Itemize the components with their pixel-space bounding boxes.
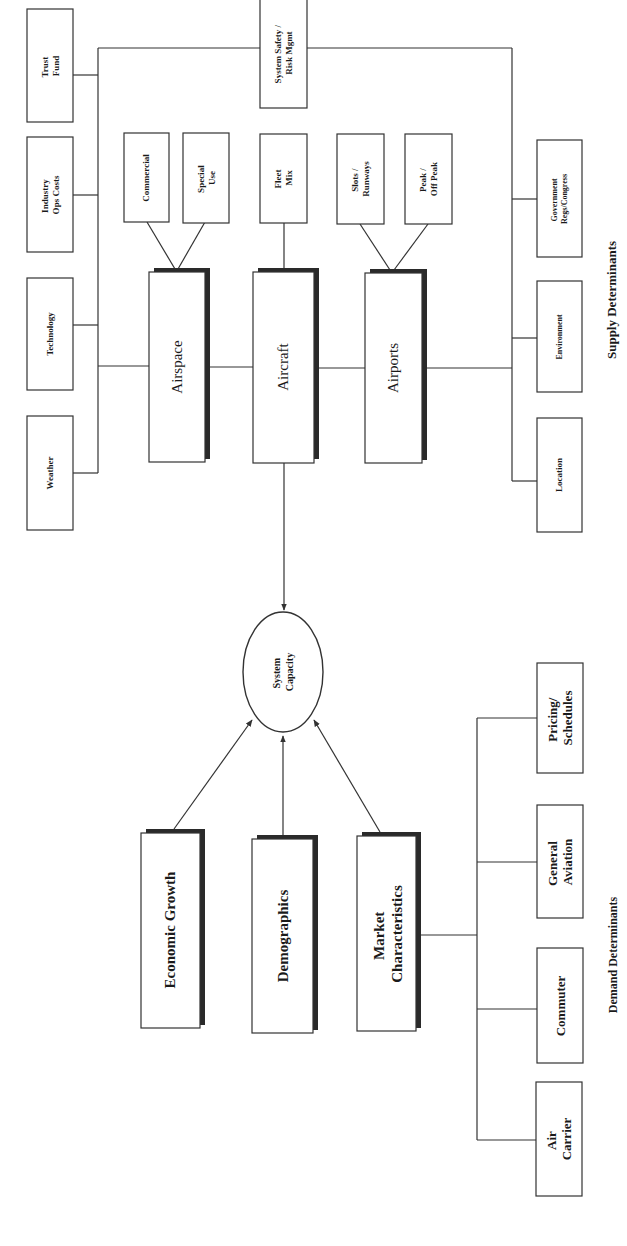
box-airports: Airports bbox=[365, 269, 427, 463]
box-demographics: Demographics bbox=[252, 835, 318, 1033]
box-peak-off-peak: Peak / Off Peak bbox=[405, 134, 452, 224]
box-economic-growth: Economic Growth bbox=[141, 829, 205, 1028]
box-industry-ops-costs: Industry Ops Costs bbox=[27, 137, 73, 252]
box-aircraft: Aircraft bbox=[253, 268, 319, 463]
svg-text:Fleet Mix: Fleet Mix bbox=[273, 167, 294, 188]
svg-text:Government Regs/Congress: Government Regs/Congress bbox=[550, 174, 569, 224]
box-system-safety: System Safety / Risk Mgmt bbox=[260, 0, 307, 108]
box-location: Location bbox=[537, 418, 582, 532]
box-slots-runways: Slots / Runways bbox=[337, 134, 384, 224]
box-commuter: Commuter bbox=[537, 948, 583, 1063]
box-commercial: Commercial bbox=[124, 133, 169, 222]
svg-text:Commuter: Commuter bbox=[553, 975, 568, 1036]
demand-connectors bbox=[174, 718, 537, 1140]
box-fleet-mix: Fleet Mix bbox=[260, 134, 307, 223]
svg-text:Weather: Weather bbox=[45, 457, 55, 490]
svg-text:Demographics: Demographics bbox=[275, 890, 291, 983]
svg-text:Location: Location bbox=[554, 458, 564, 492]
box-special-use: Special Use bbox=[183, 133, 229, 223]
box-airspace: Airspace bbox=[149, 268, 210, 462]
box-air-carrier: Air Carrier bbox=[536, 1082, 582, 1196]
svg-text:General Aviation: General Aviation bbox=[545, 838, 575, 886]
system-capacity-line-2: Capacity bbox=[284, 653, 295, 691]
system-capacity-line-1: System bbox=[271, 657, 282, 688]
svg-text:Economic Growth: Economic Growth bbox=[162, 871, 178, 988]
svg-text:Airspace: Airspace bbox=[169, 340, 185, 394]
supply-determinants-title: Supply Determinants bbox=[604, 241, 619, 359]
svg-text:Airports: Airports bbox=[385, 343, 401, 393]
svg-text:Aircraft: Aircraft bbox=[275, 342, 291, 390]
box-general-aviation: General Aviation bbox=[537, 805, 583, 918]
svg-text:Industry Ops Costs: Industry Ops Costs bbox=[40, 175, 61, 214]
svg-text:System Safety / Risk Mgm: System Safety / Risk Mgmt bbox=[273, 23, 294, 84]
box-technology: Technology bbox=[27, 278, 73, 390]
box-trust-fund: Trust Fund bbox=[27, 9, 73, 122]
svg-text:Peak / Off Peak: Peak / Off Peak bbox=[418, 162, 439, 196]
demand-determinants-title: Demand Determinants bbox=[606, 897, 620, 1014]
diagram-canvas: System Capacity Trust Fund Industry Ops … bbox=[0, 0, 627, 1246]
svg-text:Pricing/ Schedules: Pricing/ Schedules bbox=[545, 691, 575, 746]
box-market-characteristics: Market Characteristics bbox=[357, 832, 421, 1031]
box-weather: Weather bbox=[27, 416, 73, 530]
box-pricing-schedules: Pricing/ Schedules bbox=[537, 663, 583, 773]
system-capacity-node: System Capacity bbox=[243, 612, 323, 732]
svg-text:Environment: Environment bbox=[555, 314, 564, 360]
svg-text:Commercial: Commercial bbox=[141, 154, 151, 202]
box-environment: Environment bbox=[537, 281, 582, 392]
box-government: Government Regs/Congress bbox=[537, 140, 582, 257]
svg-text:Technology: Technology bbox=[45, 312, 55, 356]
svg-text:Trust Fund: Trust Fund bbox=[40, 54, 61, 77]
